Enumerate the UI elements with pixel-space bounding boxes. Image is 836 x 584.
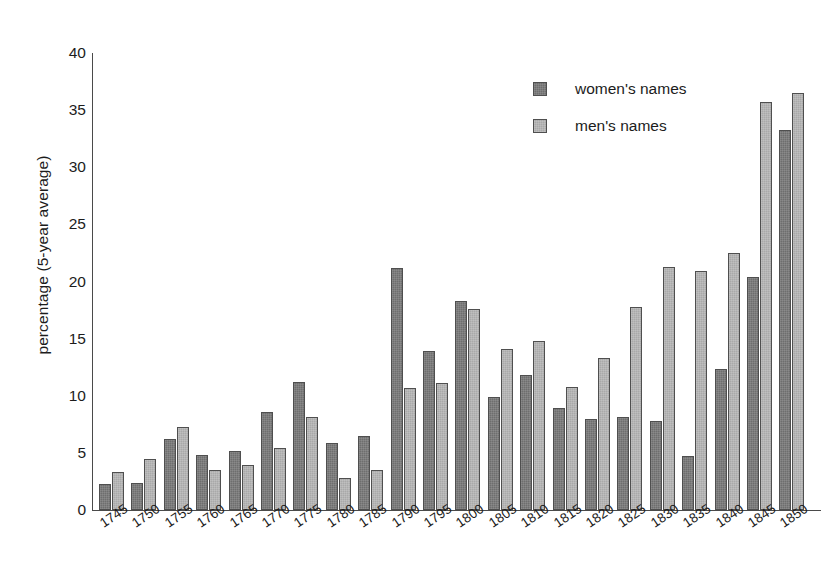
y-tick-label: 5: [52, 444, 86, 462]
bar-group: [779, 53, 805, 510]
bar-women-1850: [779, 130, 791, 510]
bar-men-1830: [663, 267, 675, 510]
bar-women-1845: [747, 277, 759, 510]
y-tick-label: 35: [52, 101, 86, 119]
bar-men-1810: [533, 341, 545, 510]
bar-group: [326, 53, 352, 510]
bar-women-1760: [196, 455, 208, 510]
bar-men-1850: [792, 93, 804, 510]
chart-legend: women's namesmen's names: [533, 70, 783, 144]
legend-label: men's names: [575, 117, 667, 135]
bar-women-1780: [326, 443, 338, 510]
legend-label: women's names: [575, 80, 687, 98]
bar-women-1800: [455, 301, 467, 510]
bar-women-1765: [229, 451, 241, 510]
bar-women-1755: [164, 439, 176, 510]
bar-women-1840: [715, 369, 727, 510]
bar-group: [164, 53, 190, 510]
bar-women-1795: [423, 351, 435, 510]
bar-group: [423, 53, 449, 510]
y-tick-label: 25: [52, 215, 86, 233]
bar-men-1840: [728, 253, 740, 510]
bar-group: [229, 53, 255, 510]
bar-men-1775: [306, 417, 318, 510]
bar-women-1815: [553, 408, 565, 510]
bar-women-1830: [650, 421, 662, 510]
bar-men-1805: [501, 349, 513, 510]
bar-men-1835: [695, 271, 707, 510]
bar-group: [196, 53, 222, 510]
bar-group: [455, 53, 481, 510]
bar-men-1795: [436, 383, 448, 510]
bar-men-1815: [566, 387, 578, 510]
legend-swatch-men: [533, 119, 547, 133]
bar-group: [358, 53, 384, 510]
bar-women-1835: [682, 456, 694, 510]
bar-women-1790: [391, 268, 403, 510]
bar-women-1750: [131, 483, 143, 510]
legend-swatch-women: [533, 82, 547, 96]
bar-women-1785: [358, 436, 370, 510]
bar-group: [131, 53, 157, 510]
bar-women-1745: [99, 484, 111, 510]
y-tick-label: 30: [52, 158, 86, 176]
y-axis-tick-labels: 0510152025303540: [50, 0, 86, 584]
bar-men-1790: [404, 388, 416, 510]
bar-group: [261, 53, 287, 510]
bar-women-1820: [585, 419, 597, 510]
bar-women-1770: [261, 412, 273, 510]
bar-chart: percentage (5-year average) 051015202530…: [0, 0, 836, 584]
y-tick-label: 20: [52, 273, 86, 291]
bar-men-1825: [630, 307, 642, 510]
bar-group: [488, 53, 514, 510]
bar-group: [99, 53, 125, 510]
bar-group: [293, 53, 319, 510]
y-tick-label: 0: [52, 501, 86, 519]
bar-women-1805: [488, 397, 500, 510]
y-tick-label: 10: [52, 387, 86, 405]
bar-men-1820: [598, 358, 610, 510]
bar-group: [391, 53, 417, 510]
bar-men-1755: [177, 427, 189, 510]
bar-women-1810: [520, 375, 532, 510]
bar-women-1825: [617, 417, 629, 510]
bar-women-1775: [293, 382, 305, 510]
legend-item-men: men's names: [533, 107, 783, 144]
bar-men-1845: [760, 102, 772, 510]
y-tick-label: 40: [52, 44, 86, 62]
legend-item-women: women's names: [533, 70, 783, 107]
bar-men-1800: [468, 309, 480, 510]
y-tick-label: 15: [52, 330, 86, 348]
